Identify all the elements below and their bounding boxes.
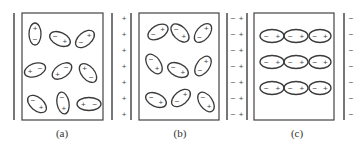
plus-charge-symbol: + — [28, 67, 33, 76]
dipole-outline — [47, 28, 72, 49]
plate-minus-charge: − — [231, 94, 236, 103]
plus-charge-symbol: + — [204, 24, 209, 33]
plate-plus-charge: + — [239, 30, 244, 39]
minus-charge-symbol: − — [149, 55, 154, 64]
minus-charge-symbol: − — [31, 96, 36, 105]
plate-minus-charge: − — [231, 46, 236, 55]
plus-charge-symbol: + — [62, 104, 67, 113]
plus-charge-symbol: + — [299, 84, 304, 93]
dipole-outline — [24, 92, 49, 116]
dipole: +− — [191, 20, 215, 45]
plus-charge-symbol: + — [207, 102, 212, 111]
plate-plus-charge: + — [122, 14, 127, 23]
dipole: +− — [24, 92, 49, 116]
dipole-outline — [22, 60, 47, 80]
plate-plus-charge: + — [122, 30, 127, 39]
dielectric-polarization-diagram: +−+−+−+−+−+−+−+−+− +++++++ −−−−−−− +−+−+… — [0, 0, 363, 150]
dipole: +− — [76, 60, 100, 85]
plate-plus-charge: + — [239, 62, 244, 71]
plus-charge-symbol: + — [204, 57, 209, 66]
plate-minus-charge: − — [349, 14, 354, 23]
plate-minus-charge: − — [231, 14, 236, 23]
dipole-outline — [168, 86, 193, 110]
plate-charges-right-b: −−−−−−− — [231, 14, 236, 119]
plate-plus-charge: + — [122, 110, 127, 119]
dipole-outline — [168, 21, 193, 46]
plus-charge-symbol: + — [82, 64, 87, 73]
plate-minus-charge: − — [231, 78, 236, 87]
caption-a: (a) — [56, 127, 68, 139]
plus-charge-symbol: + — [323, 58, 328, 67]
dipole: +− — [165, 59, 190, 80]
dipole: +− — [309, 56, 331, 69]
plus-charge-symbol: + — [160, 25, 165, 34]
minus-charge-symbol: − — [264, 32, 269, 41]
panel-b: +++++++ −−−−−−− +−+−+−+−+−+−+−+−+− — [122, 13, 236, 120]
dipole-outline — [145, 21, 171, 43]
minus-charge-symbol: − — [151, 30, 156, 39]
minus-charge-symbol: − — [201, 93, 206, 102]
dipole: +− — [260, 30, 284, 43]
plate-minus-charge: − — [349, 110, 354, 119]
dipole: +− — [29, 23, 41, 45]
plate-minus-charge: − — [231, 30, 236, 39]
minus-charge-symbol: − — [288, 84, 293, 93]
plus-charge-symbol: + — [155, 64, 160, 73]
dipole: +− — [142, 51, 165, 76]
minus-charge-symbol: − — [89, 73, 94, 82]
minus-charge-symbol: − — [149, 93, 154, 102]
caption-c: (c) — [291, 127, 303, 139]
plus-charge-symbol: + — [62, 37, 67, 46]
plate-plus-charge: + — [122, 78, 127, 87]
minus-charge-symbol: − — [312, 84, 317, 93]
minus-charge-symbol: − — [288, 32, 293, 41]
minus-charge-symbol: − — [174, 25, 179, 34]
dipole: +− — [284, 56, 308, 69]
plate-plus-charge: + — [122, 62, 127, 71]
dipole: +− — [260, 56, 284, 69]
plus-charge-symbol: + — [299, 32, 304, 41]
dipole: +− — [145, 21, 171, 43]
plus-charge-symbol: + — [183, 90, 188, 99]
dipole: +− — [47, 28, 72, 49]
dipole: +− — [49, 59, 74, 82]
minus-charge-symbol: − — [197, 33, 202, 42]
minus-charge-symbol: − — [79, 38, 84, 47]
minus-charge-symbol: − — [198, 66, 203, 75]
plate-plus-charge: + — [239, 110, 244, 119]
plus-charge-symbol: + — [158, 98, 163, 107]
plus-charge-symbol: + — [323, 32, 328, 41]
plate-minus-charge: − — [231, 62, 236, 71]
plus-charge-symbol: + — [55, 70, 60, 79]
plate-charges-left-b: +++++++ — [122, 14, 127, 119]
plus-charge-symbol: + — [39, 103, 44, 112]
plus-charge-symbol: + — [275, 58, 280, 67]
minus-charge-symbol: − — [60, 93, 65, 102]
plate-minus-charge: − — [349, 94, 354, 103]
dipole: +− — [168, 21, 193, 46]
dipole-outline — [76, 60, 100, 85]
minus-charge-symbol: − — [92, 100, 97, 109]
dipole: +− — [22, 60, 47, 80]
plus-charge-symbol: + — [323, 84, 328, 93]
plate-plus-charge: + — [122, 94, 127, 103]
plus-charge-symbol: + — [180, 68, 185, 77]
plus-charge-symbol: + — [33, 24, 38, 33]
minus-charge-symbol: − — [38, 64, 43, 73]
plate-plus-charge: + — [122, 46, 127, 55]
plus-charge-symbol: + — [181, 32, 186, 41]
plate-charges-left-c: +++++++ — [239, 14, 244, 119]
dipole: +− — [309, 82, 331, 95]
dipole: +− — [309, 30, 331, 43]
plate-minus-charge: − — [349, 62, 354, 71]
dipole: +− — [284, 82, 308, 95]
minus-charge-symbol: − — [171, 63, 176, 72]
minus-charge-symbol: − — [64, 63, 69, 72]
plate-plus-charge: + — [239, 94, 244, 103]
dipole: +− — [77, 98, 101, 111]
plus-charge-symbol: + — [299, 58, 304, 67]
dipoles-b: +−+−+−+−+−+−+−+−+− — [142, 20, 217, 114]
dipole: +− — [284, 30, 308, 43]
plate-charges-right-c: −−−−−−− — [349, 14, 354, 119]
plus-charge-symbol: + — [87, 31, 92, 40]
